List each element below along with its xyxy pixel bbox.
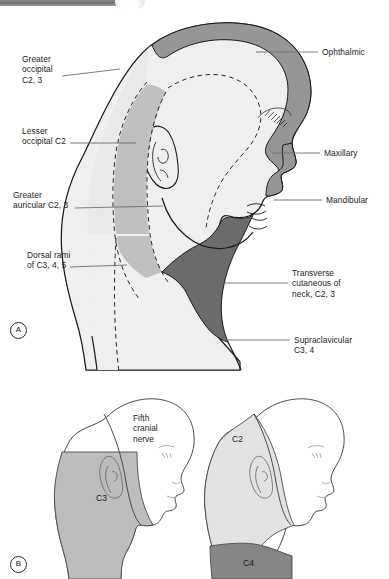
label-lesser-occipital: Lesser occipital C2 — [22, 126, 66, 147]
figure-page: Greater occipital C2, 3 Lesser occipital… — [0, 0, 389, 579]
caption-fifth-cranial-nerve: Fifth cranial nerve — [133, 413, 158, 444]
scan-artifact-bar — [0, 0, 126, 6]
label-greater-occipital: Greater occipital C2, 3 — [22, 54, 53, 85]
label-greater-auricular: Greater auricular C2, 3 — [13, 190, 68, 211]
label-right-head-c4: C4 — [243, 558, 254, 568]
label-mandibular: Mandibular — [326, 195, 368, 205]
head-left-c3 — [54, 399, 194, 579]
label-maxillary: Maxillary — [324, 148, 358, 158]
label-dorsal-rami: Dorsal rami of C3, 4, 5 — [27, 250, 70, 271]
label-transverse-cutaneous-neck: Transverse cutaneous of neck, C2, 3 — [292, 268, 341, 299]
panel-badge-a: A — [10, 322, 27, 339]
label-right-head-c2: C2 — [232, 434, 243, 444]
panel-b-illustration: C3 C2 C4 — [0, 386, 389, 579]
label-left-head-c3: C3 — [96, 493, 107, 503]
label-ophthalmic: Ophthalmic — [322, 47, 365, 57]
label-supraclavicular: Supraclavicular C3, 4 — [294, 335, 352, 356]
panel-badge-b: B — [10, 556, 27, 573]
head-right-c2-c4 — [205, 399, 345, 579]
